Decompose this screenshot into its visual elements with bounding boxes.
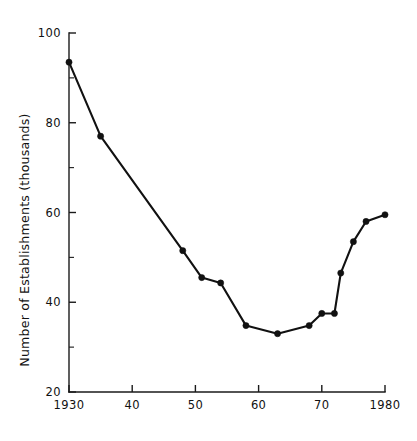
data-point — [98, 133, 104, 139]
series-line-0 — [69, 62, 385, 333]
data-point — [338, 270, 344, 276]
x-tick-label-1930: 1930 — [54, 398, 85, 412]
data-point — [350, 239, 356, 245]
axes-group — [69, 33, 385, 392]
data-point — [363, 218, 369, 224]
y-tick-label-60: 60 — [46, 206, 61, 220]
data-point — [306, 322, 312, 328]
line-chart-canvas: Number of Establishments (thousands) 100… — [0, 0, 417, 441]
data-point — [243, 322, 249, 328]
x-tick-label-40: 40 — [124, 398, 139, 412]
data-point — [319, 310, 325, 316]
data-point — [199, 274, 205, 280]
x-tick-label-70: 70 — [314, 398, 329, 412]
data-point — [331, 310, 337, 316]
x-tick-label-1980: 1980 — [370, 398, 401, 412]
data-point — [180, 248, 186, 254]
x-tick-label-60: 60 — [251, 398, 266, 412]
data-point — [66, 59, 72, 65]
y-tick-label-100: 100 — [38, 26, 61, 40]
x-axis-tick-labels: 1930405060701980 — [54, 398, 401, 412]
x-axis-major-ticks — [69, 385, 385, 392]
y-tick-label-80: 80 — [46, 116, 61, 130]
chart-figure: Number of Establishments (thousands) 100… — [0, 0, 417, 441]
y-axis-tick-labels: 10080604020 — [38, 26, 61, 399]
y-tick-label-40: 40 — [46, 295, 61, 309]
y-axis-title: Number of Establishments (thousands) — [17, 113, 32, 366]
y-axis-major-ticks — [69, 33, 76, 392]
data-point — [274, 331, 280, 337]
data-point — [382, 212, 388, 218]
x-tick-label-50: 50 — [188, 398, 203, 412]
data-series-lines — [69, 62, 385, 333]
data-point — [218, 280, 224, 286]
